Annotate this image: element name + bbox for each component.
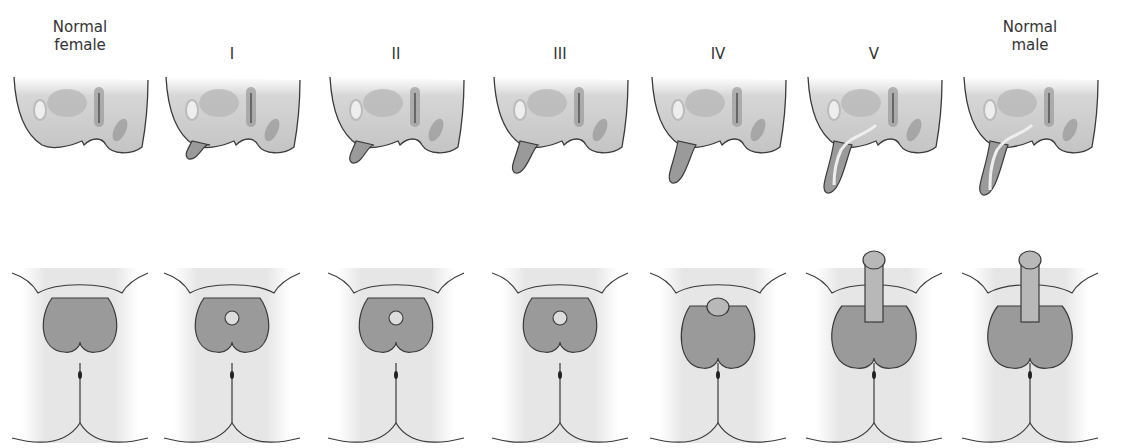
anus bbox=[394, 371, 398, 379]
phallus bbox=[824, 141, 852, 193]
phallus bbox=[669, 141, 696, 183]
glans bbox=[1019, 251, 1041, 269]
normal-female-external-view bbox=[12, 268, 148, 443]
anus bbox=[558, 371, 562, 379]
stage-5-sagittal-view bbox=[808, 77, 942, 193]
stage-1-sagittal-view bbox=[166, 77, 300, 159]
anus bbox=[716, 371, 720, 379]
anus bbox=[1028, 371, 1032, 379]
stage-4-sagittal-view bbox=[652, 77, 786, 183]
phallus bbox=[186, 141, 210, 159]
bladder bbox=[199, 89, 239, 117]
bladder bbox=[363, 89, 403, 117]
anus bbox=[78, 371, 82, 379]
bladder bbox=[997, 89, 1037, 117]
labioscrotal-folds bbox=[43, 298, 116, 352]
anus bbox=[230, 371, 234, 379]
normal-male-sagittal-view bbox=[964, 77, 1098, 195]
phallus bbox=[980, 141, 1008, 195]
pubic-bone bbox=[828, 100, 840, 120]
pubic-bone bbox=[186, 100, 198, 120]
stage-2-sagittal-view bbox=[330, 77, 464, 163]
stage-5-external-view bbox=[806, 251, 942, 443]
clitoris bbox=[389, 311, 403, 325]
bladder bbox=[527, 89, 567, 117]
clitoris bbox=[553, 311, 567, 325]
pubic-bone bbox=[34, 100, 46, 120]
pubic-bone bbox=[514, 100, 526, 120]
bladder bbox=[841, 89, 881, 117]
clitoris bbox=[225, 311, 239, 325]
anus bbox=[872, 371, 876, 379]
phallus-shaft bbox=[1021, 262, 1039, 322]
stage-1-external-view bbox=[164, 268, 300, 443]
phallus bbox=[350, 141, 374, 163]
phallus bbox=[512, 141, 538, 173]
pubic-bone bbox=[672, 100, 684, 120]
pubic-bone bbox=[984, 100, 996, 120]
bladder bbox=[47, 89, 87, 117]
diagram-canvas bbox=[0, 0, 1135, 448]
stage-2-external-view bbox=[328, 268, 464, 443]
stage-4-external-view bbox=[650, 268, 786, 443]
stage-3-external-view bbox=[492, 268, 628, 443]
phallus-shaft bbox=[865, 262, 883, 322]
normal-female-sagittal-view bbox=[14, 77, 148, 153]
stage-3-sagittal-view bbox=[494, 77, 628, 173]
glans bbox=[863, 251, 885, 269]
bladder bbox=[685, 89, 725, 117]
glans bbox=[707, 298, 729, 316]
pubic-bone bbox=[350, 100, 362, 120]
normal-male-external-view bbox=[962, 251, 1098, 443]
